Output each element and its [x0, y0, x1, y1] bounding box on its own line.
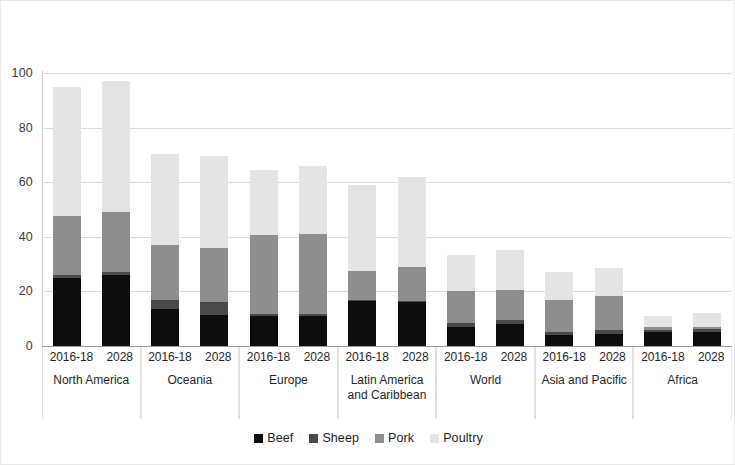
chart-legend: BeefSheepPorkPoultry: [1, 431, 735, 445]
legend-item-pork[interactable]: Pork: [375, 431, 414, 445]
category-cell: 2016-182028Europe: [239, 347, 338, 419]
stacked-bar: [644, 316, 672, 346]
stacked-bar: [545, 272, 573, 346]
bar-segment-pork: [595, 296, 623, 331]
period-labels: 2016-182028: [536, 350, 633, 364]
bar-group: [42, 73, 141, 346]
category-label-line: World: [439, 373, 532, 388]
bar-segment-pork: [693, 327, 721, 329]
bar-segment-pork: [644, 327, 672, 329]
bar-group: [338, 73, 437, 346]
category-cell: 2016-182028Africa: [633, 347, 732, 419]
bar-group: [633, 73, 732, 346]
stacked-bar: [348, 185, 376, 346]
stacked-bar: [447, 255, 475, 346]
bar-segment-pork: [53, 216, 81, 275]
period-labels: 2016-182028: [437, 350, 534, 364]
category-label-band: 2016-182028North America2016-182028Ocean…: [42, 347, 732, 419]
category-label-line: Africa: [636, 373, 729, 388]
bar-segment-beef: [250, 316, 278, 346]
bar-segment-pork: [151, 245, 179, 300]
stacked-bar: [53, 87, 81, 346]
bar-segment-sheep: [200, 302, 228, 314]
legend-swatch-sheep-icon: [309, 434, 318, 443]
bar-segment-poultry: [250, 170, 278, 236]
category-label-line: Asia and Pacific: [538, 373, 631, 388]
bar-segment-poultry: [398, 177, 426, 267]
bar-segment-poultry: [447, 255, 475, 292]
period-label: 2016-18: [543, 350, 586, 364]
legend-item-beef[interactable]: Beef: [254, 431, 293, 445]
bar-segment-pork: [545, 300, 573, 332]
stacked-bar: [151, 154, 179, 346]
category-label-line: and Caribbean: [341, 388, 434, 403]
category-cell: 2016-182028Latin Americaand Caribbean: [338, 347, 437, 419]
category-label-line: Europe: [242, 373, 335, 388]
category-cell: 2016-182028World: [436, 347, 535, 419]
bar-group: [436, 73, 535, 346]
period-label: 2016-18: [444, 350, 487, 364]
legend-item-sheep[interactable]: Sheep: [309, 431, 359, 445]
bar-segment-beef: [348, 301, 376, 346]
period-labels: 2016-182028: [240, 350, 337, 364]
bar-segment-beef: [53, 278, 81, 346]
bar-segment-sheep: [53, 275, 81, 278]
category-label: World: [437, 373, 534, 388]
y-axis-tick-label: 20: [1, 284, 33, 298]
stacked-bar: [496, 250, 524, 346]
category-label: Oceania: [142, 373, 239, 388]
bar-segment-poultry: [102, 81, 130, 212]
period-label: 2028: [599, 350, 625, 364]
y-axis-labels: 020406080100: [1, 73, 37, 346]
period-label: 2028: [698, 350, 724, 364]
bar-segment-beef: [102, 275, 130, 346]
stacked-bar: [200, 156, 228, 346]
stacked-bar: [250, 170, 278, 346]
plot-area: [42, 73, 732, 346]
y-axis-tick-label: 100: [1, 66, 33, 80]
bar-segment-beef: [644, 332, 672, 346]
bar-segment-pork: [250, 235, 278, 313]
bar-segment-sheep: [299, 314, 327, 316]
bar-segment-beef: [299, 316, 327, 346]
stacked-bar: [102, 81, 130, 346]
bar-segment-pork: [102, 212, 130, 272]
bar-segment-pork: [398, 267, 426, 301]
period-label: 2028: [205, 350, 231, 364]
category-cell: 2016-182028North America: [42, 347, 141, 419]
bar-segment-pork: [496, 290, 524, 320]
stacked-bar: [595, 268, 623, 346]
bar-segment-sheep: [693, 329, 721, 332]
bar-segment-beef: [398, 302, 426, 346]
bar-segment-beef: [151, 309, 179, 346]
bar-segment-sheep: [545, 332, 573, 335]
legend-item-poultry[interactable]: Poultry: [430, 431, 483, 445]
category-label: North America: [43, 373, 140, 388]
legend-label: Sheep: [322, 431, 359, 445]
bar-segment-beef: [447, 327, 475, 346]
period-labels: 2016-182028: [634, 350, 731, 364]
bar-segment-pork: [447, 291, 475, 322]
y-axis-tick-label: 0: [1, 339, 33, 353]
bar-group: [535, 73, 634, 346]
bar-segment-poultry: [644, 316, 672, 327]
period-label: 2016-18: [247, 350, 290, 364]
bar-segment-sheep: [348, 300, 376, 301]
category-cell: 2016-182028Asia and Pacific: [535, 347, 634, 419]
bar-segment-poultry: [545, 272, 573, 299]
bar-segment-pork: [299, 234, 327, 314]
bar-segment-beef: [496, 324, 524, 346]
period-label: 2016-18: [345, 350, 388, 364]
category-cell: 2016-182028Oceania: [141, 347, 240, 419]
bar-segment-sheep: [447, 323, 475, 327]
legend-label: Pork: [388, 431, 414, 445]
bar-segment-beef: [693, 332, 721, 346]
bar-segment-sheep: [151, 300, 179, 310]
bar-segment-poultry: [299, 166, 327, 234]
bar-segment-pork: [348, 271, 376, 300]
period-label: 2028: [402, 350, 428, 364]
period-label: 2016-18: [641, 350, 684, 364]
category-label-line: Oceania: [144, 373, 237, 388]
category-label: Latin Americaand Caribbean: [339, 373, 436, 403]
period-label: 2028: [304, 350, 330, 364]
